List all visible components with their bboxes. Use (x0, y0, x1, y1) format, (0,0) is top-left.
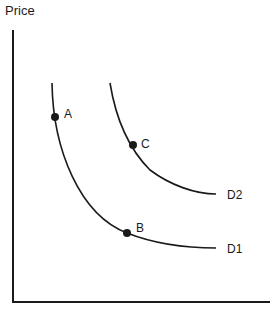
demand-curve-d2 (110, 83, 216, 194)
demand-curve-d1 (52, 83, 216, 248)
curve-d2-label: D2 (227, 188, 243, 202)
point-b-marker (123, 229, 131, 237)
point-c-marker (129, 141, 137, 149)
point-a-label: A (64, 107, 72, 121)
demand-diagram: A B C D2 D1 (0, 0, 270, 312)
point-a-marker (51, 113, 59, 121)
point-b-label: B (136, 221, 144, 235)
point-c-label: C (141, 137, 150, 151)
curve-d1-label: D1 (227, 242, 243, 256)
